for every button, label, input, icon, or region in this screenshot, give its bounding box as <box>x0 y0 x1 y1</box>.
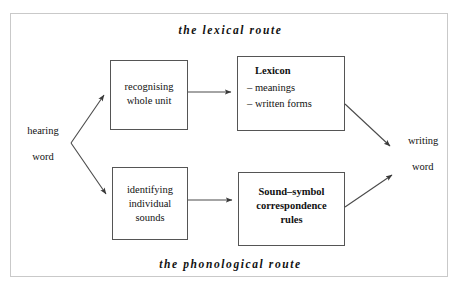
box-recognising-label: recognising whole unit <box>110 80 188 108</box>
lexicon-item-meanings: – meanings <box>247 81 343 95</box>
label-output-writing-word: writing word <box>408 128 460 180</box>
input-line-1: hearing <box>18 118 68 144</box>
identifying-line-2: individual <box>129 198 172 209</box>
output-line-2: word <box>412 154 460 180</box>
arrow-input-to-recognising <box>71 95 104 143</box>
label-input-hearing-word: hearing word <box>18 118 68 170</box>
lexicon-title: Lexicon <box>255 64 343 78</box>
input-line-2: word <box>18 144 68 170</box>
arrow-lexicon-to-output <box>345 104 390 146</box>
diagram-connectors-layer <box>0 0 461 301</box>
box-rules-label: Sound–symbol correspondence rules <box>238 185 345 227</box>
rules-line-3: rules <box>280 214 302 225</box>
rules-line-2: correspondence <box>256 200 326 211</box>
identifying-line-3: sounds <box>135 212 164 223</box>
box-lexicon-label: Lexicon – meanings – written forms <box>243 64 343 113</box>
recognising-line-2: whole unit <box>127 95 172 106</box>
lexicon-item-written-forms: – written forms <box>247 97 343 111</box>
recognising-line-1: recognising <box>125 81 174 92</box>
arrow-input-to-identifying <box>71 143 106 194</box>
arrow-rules-to-output <box>345 175 392 207</box>
caption-phonological-route: the phonological route <box>0 258 461 270</box>
box-identifying-label: identifying individual sounds <box>112 183 188 225</box>
identifying-line-1: identifying <box>127 184 173 195</box>
caption-lexical-route: the lexical route <box>0 24 461 36</box>
output-line-1: writing <box>408 128 460 154</box>
rules-line-1: Sound–symbol <box>259 186 325 197</box>
diagram-canvas: the lexical route the phonological route… <box>0 0 461 301</box>
